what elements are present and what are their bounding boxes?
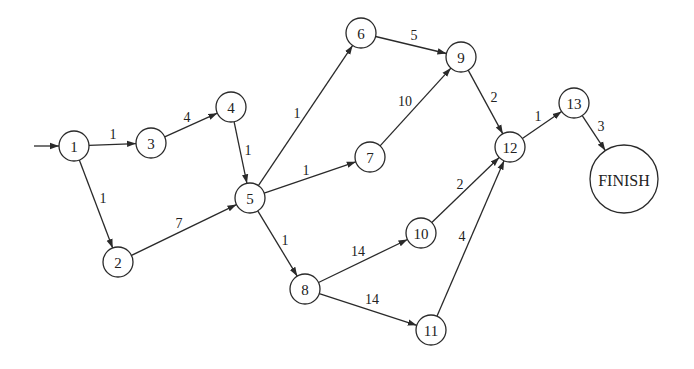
edge-1-to-3 — [89, 144, 136, 146]
node-label: 6 — [357, 26, 365, 42]
edge-12-to-13 — [522, 111, 561, 138]
node-1: 1 — [59, 131, 89, 161]
edge-weight-label: 4 — [459, 229, 466, 244]
node-2: 2 — [103, 247, 133, 277]
edge-weight-label: 1 — [100, 191, 107, 206]
edge-weight-label: 1 — [535, 109, 542, 124]
edge-9-to-12 — [468, 70, 503, 134]
node-label: 1 — [70, 139, 78, 155]
activity-network-diagram: 11417111510214142413 12345678910111213FI… — [0, 0, 694, 369]
edge-weight-label: 2 — [457, 177, 464, 192]
nodes-layer: 12345678910111213FINISH — [59, 18, 658, 345]
node-5: 5 — [235, 183, 265, 213]
node-8: 8 — [290, 274, 320, 304]
edge-10-to-12 — [432, 157, 499, 222]
node-label: 2 — [114, 255, 122, 271]
edge-weight-label: 2 — [491, 90, 498, 105]
node-label: 10 — [414, 226, 429, 242]
node-3: 3 — [136, 128, 166, 158]
network-canvas: 11417111510214142413 12345678910111213FI… — [0, 0, 694, 369]
node-label: 4 — [227, 100, 235, 116]
edges-layer — [34, 37, 605, 326]
edge-weight-label: 14 — [351, 244, 365, 259]
edge-weight-label: 1 — [110, 127, 117, 142]
node-7: 7 — [355, 142, 385, 172]
edge-weight-label: 10 — [398, 94, 412, 109]
node-9: 9 — [446, 42, 476, 72]
node-label: FINISH — [598, 172, 650, 189]
edge-5-to-7 — [264, 162, 356, 193]
edge-1-to-2 — [79, 160, 112, 248]
node-label: 13 — [567, 96, 582, 112]
edge-weight-label: 1 — [294, 106, 301, 121]
node-11: 11 — [416, 315, 446, 345]
node-label: 5 — [246, 191, 254, 207]
node-label: 7 — [366, 150, 374, 166]
node-label: 3 — [147, 136, 155, 152]
edge-weight-label: 5 — [411, 28, 418, 43]
edge-7-to-9 — [380, 68, 451, 146]
node-6: 6 — [346, 18, 376, 48]
edge-11-to-12 — [437, 161, 504, 316]
node-label: 12 — [503, 140, 518, 156]
edge-2-to-5 — [131, 205, 236, 256]
edge-weight-label: 4 — [184, 110, 191, 125]
edge-weight-label: 1 — [245, 143, 252, 158]
node-10: 10 — [406, 218, 436, 248]
edge-3-to-4 — [165, 113, 218, 137]
edge-weight-label: 1 — [303, 163, 310, 178]
edge-weight-label: 7 — [176, 216, 183, 231]
node-label: 8 — [301, 282, 309, 298]
edge-weight-label: 1 — [282, 233, 289, 248]
edge-weights-layer: 11417111510214142413 — [100, 28, 605, 307]
edge-weight-label: 3 — [598, 119, 605, 134]
node-label: 11 — [424, 323, 438, 339]
node-label: 9 — [457, 50, 465, 66]
node-12: 12 — [495, 132, 525, 162]
finish-node: FINISH — [590, 145, 658, 213]
node-4: 4 — [216, 92, 246, 122]
edge-weight-label: 14 — [365, 292, 379, 307]
edge-5-to-8 — [258, 211, 297, 276]
node-13: 13 — [559, 88, 589, 118]
